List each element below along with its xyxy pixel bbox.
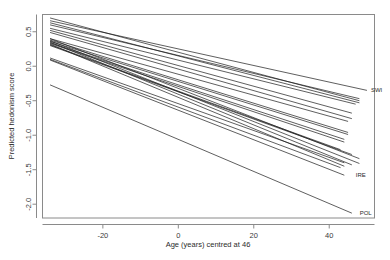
series-label-swi: SWI [371, 87, 383, 93]
y-tick-label: -0.5 [24, 94, 33, 107]
chart-figure: -2002040 0.50.0-0.5-1.0-1.5-2.0 SWIIREPO… [0, 0, 390, 260]
hedonism-age-line-chart: -2002040 0.50.0-0.5-1.0-1.5-2.0 SWIIREPO… [0, 0, 390, 260]
y-tick-label: -1.5 [24, 163, 33, 176]
x-axis-title: Age (years) centred at 46 [166, 240, 251, 249]
x-tick-label: 40 [325, 231, 333, 240]
series-label-ire: IRE [356, 172, 366, 178]
y-axis-title: Predicted hedonism score [7, 73, 16, 160]
y-tick-label: -1.0 [24, 129, 33, 142]
y-tick-label: 0.5 [24, 27, 33, 37]
x-tick-label: -20 [97, 231, 108, 240]
x-tick-label: 20 [250, 231, 258, 240]
chart-background [0, 0, 390, 260]
y-tick-label: -2.0 [24, 198, 33, 211]
series-label-pol: POL [360, 210, 373, 216]
x-tick-label: 0 [176, 231, 180, 240]
y-tick-label: 0.0 [24, 61, 33, 71]
